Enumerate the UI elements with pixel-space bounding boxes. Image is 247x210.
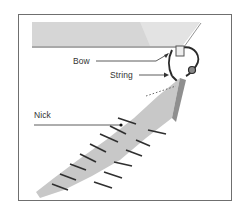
hull-illustration	[32, 22, 201, 47]
shackle-illustration	[169, 46, 198, 82]
flag-diagram	[0, 0, 247, 210]
bow-arrowhead	[164, 53, 169, 58]
string-arrowhead	[164, 73, 169, 78]
label-nick: Nick	[34, 110, 51, 120]
label-bow: Bow	[73, 56, 90, 66]
label-string: String	[110, 70, 133, 80]
fabric-illustration	[36, 78, 186, 198]
